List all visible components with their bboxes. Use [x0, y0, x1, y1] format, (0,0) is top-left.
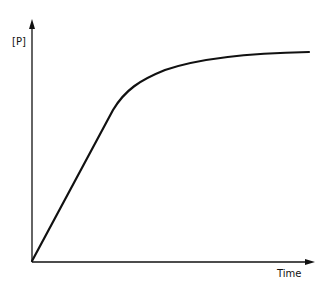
- x-axis-arrow-icon: [305, 259, 315, 265]
- chart-canvas: [0, 0, 329, 288]
- product-curve: [32, 52, 309, 261]
- x-axis-label: Time: [277, 268, 301, 279]
- y-axis-arrow-icon: [29, 19, 35, 29]
- y-axis-label: [P]: [12, 36, 26, 47]
